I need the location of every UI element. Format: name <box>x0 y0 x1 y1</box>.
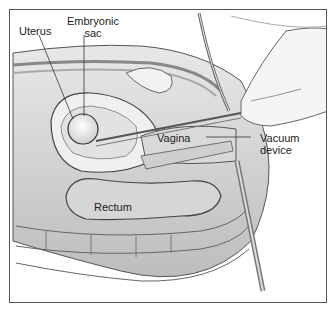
label-embryonic-line1: Embryonic <box>67 15 119 27</box>
label-vacuum-device: Vacuum device <box>260 132 300 156</box>
label-rectum: Rectum <box>94 201 132 213</box>
label-embryonic-line2: sac <box>67 27 119 39</box>
label-vacuum-line2: device <box>260 144 300 156</box>
label-vagina: Vagina <box>157 132 190 144</box>
label-embryonic-sac: Embryonic sac <box>67 15 119 39</box>
label-vacuum-line1: Vacuum <box>260 132 300 144</box>
illustration-frame: Uterus Embryonic sac Vagina Vacuum devic… <box>9 9 327 303</box>
anatomy-illustration <box>10 10 327 303</box>
label-uterus: Uterus <box>19 25 51 37</box>
